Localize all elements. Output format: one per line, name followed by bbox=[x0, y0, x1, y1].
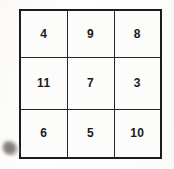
grid-cell-r3c2[interactable]: 5 bbox=[67, 109, 114, 158]
grid-row-3: 6 5 10 bbox=[20, 109, 161, 158]
number-grid: 4 9 8 11 7 3 bbox=[19, 9, 160, 157]
grid-cell-r1c1[interactable]: 4 bbox=[20, 10, 67, 57]
cell-value: 10 bbox=[115, 127, 161, 139]
cell-value: 6 bbox=[21, 127, 67, 139]
grid-cell-r3c1[interactable]: 6 bbox=[20, 109, 67, 158]
grid-cell-r1c2[interactable]: 9 bbox=[67, 10, 114, 57]
grid-row-1: 4 9 8 bbox=[20, 10, 161, 57]
grid-row-2: 11 7 3 bbox=[20, 57, 161, 109]
grid-cell-r3c3[interactable]: 10 bbox=[114, 109, 161, 158]
cell-value: 4 bbox=[21, 28, 67, 40]
cell-value: 9 bbox=[68, 28, 114, 40]
cell-value: 3 bbox=[115, 77, 161, 89]
grid-cell-r1c3[interactable]: 8 bbox=[114, 10, 161, 57]
page-root: 4 9 8 11 7 3 bbox=[0, 0, 174, 169]
cell-value: 8 bbox=[115, 28, 161, 40]
grid-cell-r2c1[interactable]: 11 bbox=[20, 57, 67, 109]
grid-cell-r2c3[interactable]: 3 bbox=[114, 57, 161, 109]
cell-value: 11 bbox=[21, 77, 67, 89]
grid-table: 4 9 8 11 7 3 bbox=[19, 9, 162, 159]
cell-value: 5 bbox=[68, 127, 114, 139]
grid-cell-r2c2[interactable]: 7 bbox=[67, 57, 114, 109]
cell-value: 7 bbox=[68, 77, 114, 89]
